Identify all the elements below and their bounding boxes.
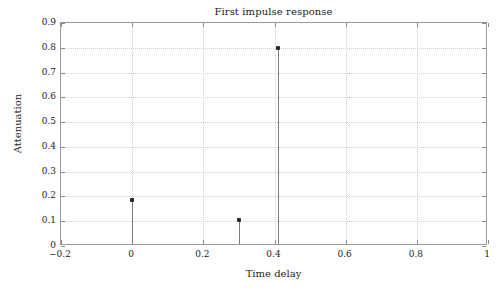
y-axis-tick [61, 122, 65, 123]
x-axis-tick [275, 240, 276, 244]
y-axis-tick [482, 97, 486, 98]
gridline-horizontal [61, 73, 486, 74]
x-axis-tick-label: 1 [484, 249, 490, 259]
x-axis-tick [61, 240, 62, 244]
y-axis-tick [482, 196, 486, 197]
x-axis-tick [132, 23, 133, 27]
y-axis-tick [482, 23, 486, 24]
x-axis-tick [346, 240, 347, 244]
y-axis-tick [61, 97, 65, 98]
gridline-vertical [346, 23, 347, 244]
y-axis-tick-labels: 00.10.20.30.40.50.60.70.80.9 [0, 22, 56, 245]
x-axis-tick [275, 23, 276, 27]
x-axis-tick-label: 0.2 [195, 249, 209, 259]
y-axis-tick [482, 73, 486, 74]
stem-line [132, 198, 133, 244]
x-axis-tick [61, 23, 62, 27]
x-axis-tick [488, 240, 489, 244]
y-axis-tick-label: 0.1 [4, 215, 56, 225]
gridline-vertical [417, 23, 418, 244]
x-axis-tick [417, 240, 418, 244]
x-axis-tick [203, 240, 204, 244]
y-axis-title: Attenuation [12, 79, 23, 169]
y-axis-tick [61, 48, 65, 49]
x-axis-tick [417, 23, 418, 27]
gridline-horizontal [61, 196, 486, 197]
y-axis-tick [482, 147, 486, 148]
x-axis-tick-label: 0.6 [337, 249, 351, 259]
y-axis-tick [482, 221, 486, 222]
gridline-horizontal [61, 147, 486, 148]
stem-line [278, 46, 279, 244]
gridline-horizontal [61, 172, 486, 173]
gridline-horizontal [61, 97, 486, 98]
x-axis-tick-labels: −0.200.20.40.60.81 [60, 249, 487, 263]
x-axis-tick-label: 0.8 [409, 249, 423, 259]
y-axis-tick [482, 122, 486, 123]
gridline-vertical [275, 23, 276, 244]
x-axis-tick [488, 23, 489, 27]
y-axis-tick [61, 73, 65, 74]
gridline-horizontal [61, 48, 486, 49]
x-axis-tick-label: 0.4 [266, 249, 280, 259]
y-axis-tick [61, 172, 65, 173]
y-axis-tick [61, 147, 65, 148]
y-axis-tick [482, 246, 486, 247]
data-point-marker [130, 198, 134, 202]
data-point-marker [276, 46, 280, 50]
x-axis-tick-label: 0 [128, 249, 134, 259]
y-axis-tick-label: 0.8 [4, 42, 56, 52]
y-axis-tick [482, 172, 486, 173]
y-axis-tick [61, 246, 65, 247]
x-axis-tick-label: −0.2 [49, 249, 71, 259]
x-axis-tick [203, 23, 204, 27]
x-axis-title: Time delay [60, 268, 487, 279]
gridline-horizontal [61, 221, 486, 222]
y-axis-tick-label: 0.2 [4, 190, 56, 200]
x-axis-tick [346, 23, 347, 27]
plot-area [60, 22, 487, 245]
y-axis-tick-label: 0.9 [4, 17, 56, 27]
y-axis-tick [61, 221, 65, 222]
gridline-horizontal [61, 122, 486, 123]
gridline-vertical [203, 23, 204, 244]
data-point-marker [237, 218, 241, 222]
y-axis-tick [482, 48, 486, 49]
chart-title: First impulse response [60, 6, 487, 17]
y-axis-tick-label: 0.7 [4, 67, 56, 77]
y-axis-tick [61, 196, 65, 197]
chart-figure: First impulse response 00.10.20.30.40.50… [0, 0, 503, 294]
